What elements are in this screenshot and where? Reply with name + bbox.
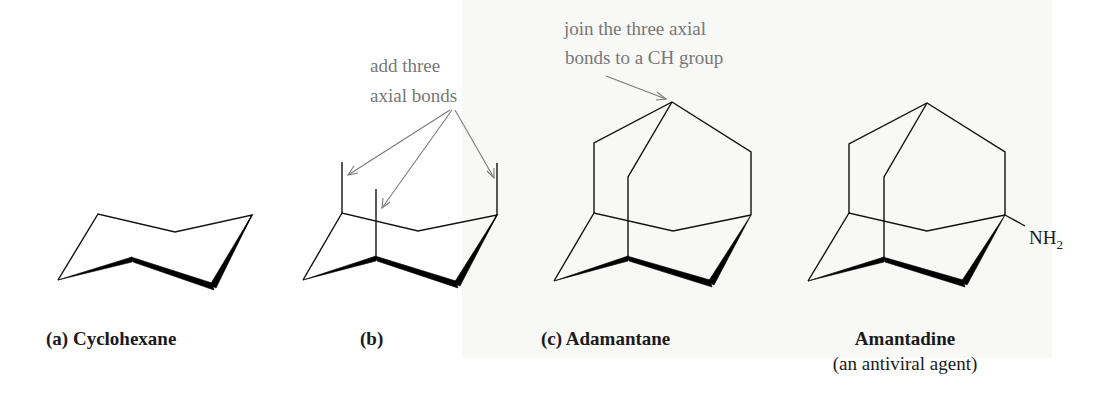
amantadine-ring-back-bonds: [808, 213, 1005, 281]
annotation-join-axial: join the three axial bonds to a CH group: [563, 18, 723, 100]
cyclohexane-back-bonds: [58, 214, 252, 287]
annotation-add-axial: add three axial bonds: [348, 55, 494, 208]
label-c: (c) Adamantane: [541, 328, 670, 350]
amantadine-front-wedge-left: [808, 257, 884, 281]
annotation-line-2: bonds to a CH group: [565, 47, 723, 68]
ring-front-wedge-left: [303, 256, 376, 280]
arrow-to-right-axial: [455, 110, 494, 178]
cyclohexane-front-wedge-right: [210, 215, 252, 288]
chemistry-figure: add three axial bonds join the three axi…: [0, 0, 1104, 401]
cyclohexane-axial-structure: [303, 162, 497, 288]
label-b: (b): [360, 328, 383, 350]
amantadine-inner-bonds: [884, 103, 927, 259]
amine-group-label: NH2: [1029, 227, 1063, 252]
annotation-line-1: join the three axial: [563, 18, 706, 39]
adamantane-front-bond-bold: [627, 256, 712, 287]
arrow-to-center-axial: [382, 110, 452, 208]
amine-bond: [1005, 215, 1025, 226]
ring-back-bonds: [303, 213, 497, 285]
ring-front-wedge-right: [454, 215, 497, 286]
arrow-to-ch-group: [606, 76, 666, 99]
label-amantadine: Amantadine: [855, 328, 955, 349]
amantadine-front-wedge-right: [961, 215, 1005, 285]
arrow-to-left-axial: [348, 110, 450, 175]
amantadine-structure: NH2: [808, 103, 1063, 287]
amine-subscript: 2: [1056, 237, 1063, 252]
adamantane-structure: [554, 102, 751, 287]
label-a: (a) Cyclohexane: [46, 328, 176, 350]
label-a-prefix: (a): [46, 328, 68, 350]
label-b-prefix: (b): [360, 328, 383, 350]
label-amantadine-subtitle: (an antiviral agent): [833, 353, 978, 375]
annotation-line-1: add three: [370, 55, 440, 76]
label-a-name: Cyclohexane: [73, 328, 176, 349]
adamantane-inner-bonds: [628, 102, 672, 258]
amantadine-front-bond-bold: [883, 257, 965, 287]
arrowhead-icon: [348, 166, 358, 175]
label-c-name: Adamantane: [566, 328, 671, 349]
label-c-prefix: (c): [541, 328, 562, 350]
adamantane-front-wedge-left: [554, 256, 628, 281]
amine-nh: NH: [1029, 227, 1057, 248]
cyclohexane-structure: [58, 214, 252, 290]
ring-front-bond-bold: [375, 256, 458, 288]
annotation-line-2: axial bonds: [370, 85, 457, 106]
cyclohexane-front-bond-bold: [131, 257, 214, 290]
adamantane-upper-bonds: [594, 102, 751, 215]
amantadine-upper-bonds: [849, 103, 1005, 215]
adamantane-front-wedge-right: [708, 215, 751, 285]
